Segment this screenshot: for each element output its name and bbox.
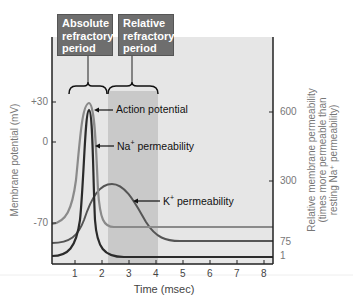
left-axis-title: Membrane potential (mV): [9, 104, 20, 217]
right-axis-title-line3: resting Na⁺ permeability): [328, 88, 339, 231]
right-tick-label: 600: [280, 106, 297, 117]
x-tick-label: 1: [72, 268, 78, 279]
action-potential-label: Action potential: [116, 103, 188, 115]
absolute-refractory-box: Absolute refractory period: [57, 14, 113, 56]
right-axis-title-line2: (times more permeable than: [317, 88, 328, 231]
right-tick-label: 1: [280, 250, 286, 261]
x-tick-label: 3: [126, 268, 132, 279]
x-tick-label: 5: [180, 268, 186, 279]
left-tick-label: +30: [31, 96, 48, 107]
right-axis-title: Relative membrane permeability (times mo…: [306, 88, 339, 231]
relative-refractory-band: [108, 91, 158, 264]
na-post: permeability: [135, 140, 195, 152]
x-axis-title: Time (msec): [134, 283, 195, 295]
k-permeability-label: K+ permeability: [163, 194, 234, 207]
k-text: K: [163, 195, 170, 207]
chart-svg: [0, 0, 353, 305]
na-text: Na: [117, 140, 130, 152]
x-tick-label: 6: [207, 268, 213, 279]
right-axis-title-line1: Relative membrane permeability: [306, 88, 317, 231]
right-tick-label: 75: [280, 236, 291, 247]
right-tick-label: 300: [280, 175, 297, 186]
left-tick-label: -70: [34, 217, 48, 228]
x-tick-label: 4: [153, 268, 159, 279]
x-tick-label: 2: [99, 268, 105, 279]
x-tick-label: 7: [234, 268, 240, 279]
left-tick-label: 0: [42, 136, 48, 147]
na-permeability-label: Na+ permeability: [117, 139, 194, 152]
relative-refractory-box: Relative refractory period: [118, 14, 174, 56]
k-post: permeability: [174, 195, 234, 207]
x-tick-label: 8: [261, 268, 267, 279]
